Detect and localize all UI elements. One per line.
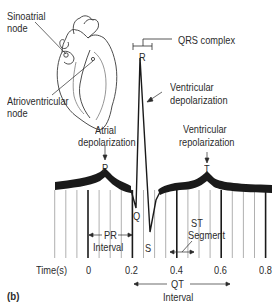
- time-tick-label: 0.6: [214, 264, 227, 276]
- st-segment-label-line1: ST: [191, 217, 203, 229]
- time-axis-label: Time(s): [36, 264, 67, 276]
- pr-interval-label-line1: PR: [104, 229, 117, 241]
- sa-node-dot: [64, 53, 68, 57]
- septum: [79, 50, 90, 118]
- time-grid: [55, 190, 266, 258]
- wave-q-label: Q: [133, 210, 140, 222]
- wave-p-label: P: [102, 162, 108, 174]
- time-tick-label: 0: [86, 264, 91, 276]
- sinoatrial-label-line2: node: [7, 22, 28, 34]
- qrs-bracket: [133, 39, 172, 50]
- ecg-diagram: Sinoatrial node Atrioventricular node QR…: [0, 0, 275, 303]
- av-node-dot: [91, 57, 94, 60]
- time-tick-label: 0.2: [125, 264, 138, 276]
- sa-leader-line: [35, 22, 66, 54]
- panel-label: (b): [7, 290, 19, 302]
- st-segment-label-line2: Segment: [188, 229, 225, 241]
- right-atrium: [62, 51, 74, 64]
- atrioventricular-label-line1: Atrioventricular: [7, 95, 69, 107]
- ventricular-depolarization-label-line1: Ventricular: [170, 81, 214, 93]
- qt-interval-label-line1: QT: [171, 278, 184, 290]
- heart-illustration: [35, 16, 117, 130]
- qrs-complex-label: QRS complex: [178, 34, 235, 46]
- time-tick-label: 0.4: [170, 264, 183, 276]
- ventricular-repolarization-arrow: [205, 152, 209, 163]
- sinoatrial-label-line1: Sinoatrial: [7, 10, 46, 22]
- pr-interval-label-line2: Interval: [93, 241, 123, 253]
- wave-t-label: T: [204, 163, 210, 175]
- ventricular-depolarization-arrow: [147, 92, 162, 102]
- heart-outline: [57, 29, 117, 130]
- inner-chamber: [73, 52, 106, 120]
- atrial-depolarization-label-line2: depolarization: [78, 136, 136, 148]
- st-segment-arrows: [170, 241, 194, 254]
- ventricular-repolarization-label-line2: repolarization: [179, 136, 234, 148]
- time-tick-label: 0.8: [259, 264, 272, 276]
- wave-r-label: R: [139, 51, 146, 63]
- ventricular-depolarization-label-line2: depolarization: [170, 94, 228, 106]
- av-leader-line: [52, 61, 93, 95]
- atrioventricular-label-line2: node: [7, 107, 28, 119]
- ventricular-repolarization-label-line1: Ventricular: [183, 123, 227, 135]
- qt-interval-label-line2: Interval: [163, 291, 193, 303]
- pulmonary-artery: [60, 19, 94, 48]
- atrial-depolarization-arrow: [103, 146, 107, 160]
- wave-s-label: S: [145, 242, 151, 254]
- atrial-depolarization-label-line1: Atrial: [95, 124, 116, 136]
